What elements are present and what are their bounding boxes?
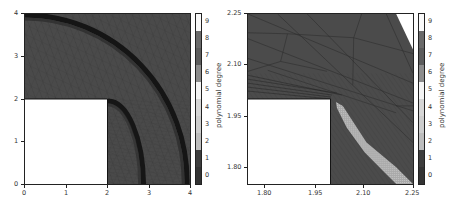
left-cbar-label: polynomial degree	[215, 63, 223, 128]
right-xtick-mark	[413, 185, 414, 188]
left-xtick-mark	[24, 185, 25, 188]
left-cbar-tick: 2	[205, 138, 209, 145]
cbar-band-4	[419, 99, 424, 116]
left-ytick-label: 0	[14, 181, 18, 188]
cbar-band-8	[419, 31, 424, 48]
left-cbar-tick: 0	[205, 172, 209, 179]
right-cbar-tick: 2	[428, 138, 432, 145]
cbar-band-5	[196, 82, 201, 99]
right-ytick-label: 1.95	[227, 113, 241, 120]
left-ytick-mark	[21, 99, 24, 100]
right-mesh-graphic	[248, 14, 413, 184]
left-cbar-tick: 3	[205, 121, 209, 128]
right-ytick-mark	[244, 13, 247, 14]
cbar-band-8	[196, 31, 201, 48]
left-cbar-tick: 8	[205, 35, 209, 42]
left-xtick-label: 2	[105, 190, 109, 197]
right-xtick-label: 2.25	[405, 190, 419, 197]
left-cbar-tick: 6	[205, 69, 209, 76]
right-xtick-mark	[315, 185, 316, 188]
cbar-band-0	[419, 167, 424, 184]
left-ytick-label: 2	[14, 96, 18, 103]
cbar-band-1	[419, 150, 424, 167]
left-ytick-mark	[21, 13, 24, 14]
left-ytick-label: 3	[14, 53, 18, 60]
left-ytick-label: 4	[14, 10, 18, 17]
cbar-band-9	[196, 14, 201, 31]
right-ytick-label: 1.80	[227, 164, 241, 171]
cbar-band-9	[419, 14, 424, 31]
right-xtick-mark	[264, 185, 265, 188]
right-cbar-tick: 7	[428, 52, 432, 59]
left-cbar-tick: 1	[205, 155, 209, 162]
right-ytick-mark	[244, 167, 247, 168]
right-ytick-label: 2.25	[227, 10, 241, 17]
right-cbar-tick: 4	[428, 104, 432, 111]
cbar-band-4	[196, 99, 201, 116]
left-xtick-mark	[107, 185, 108, 188]
left-plot-area	[24, 13, 191, 185]
right-cbar-tick: 3	[428, 121, 432, 128]
left-cbar-tick: 9	[205, 18, 209, 25]
right-cbar-tick: 0	[428, 172, 432, 179]
cbar-band-7	[419, 48, 424, 65]
right-ytick-mark	[244, 64, 247, 65]
right-cbar-tick: 9	[428, 18, 432, 25]
right-colorbar	[418, 13, 425, 185]
cbar-band-7	[196, 48, 201, 65]
right-ytick-label: 2.10	[227, 61, 241, 68]
right-plot-area	[247, 13, 414, 185]
left-ytick-label: 1	[14, 138, 18, 145]
cbar-band-2	[196, 133, 201, 150]
cbar-band-1	[196, 150, 201, 167]
cbar-band-5	[419, 82, 424, 99]
cbar-band-3	[196, 116, 201, 133]
left-ytick-mark	[21, 141, 24, 142]
right-xtick-label: 2.10	[356, 190, 370, 197]
right-cbar-tick: 5	[428, 86, 432, 93]
right-cbar-tick: 6	[428, 69, 432, 76]
left-xtick-mark	[66, 185, 67, 188]
left-xtick-label: 3	[147, 190, 151, 197]
cbar-band-0	[196, 167, 201, 184]
right-cbar-tick: 1	[428, 155, 432, 162]
left-cbar-tick: 4	[205, 104, 209, 111]
left-xtick-mark	[149, 185, 150, 188]
left-ytick-mark	[21, 56, 24, 57]
left-xtick-mark	[190, 185, 191, 188]
left-xtick-label: 0	[22, 190, 26, 197]
cbar-band-2	[419, 133, 424, 150]
left-xtick-label: 4	[188, 190, 192, 197]
right-xtick-label: 1.95	[308, 190, 322, 197]
left-colorbar	[195, 13, 202, 185]
left-cbar-tick: 5	[205, 86, 209, 93]
left-mesh-graphic	[25, 14, 190, 184]
right-cbar-tick: 8	[428, 35, 432, 42]
left-xtick-label: 1	[64, 190, 68, 197]
right-xtick-mark	[363, 185, 364, 188]
right-ytick-mark	[244, 116, 247, 117]
cbar-band-6	[196, 65, 201, 82]
right-cbar-label: polynomial degree	[438, 63, 446, 128]
left-cbar-tick: 7	[205, 52, 209, 59]
cbar-band-6	[419, 65, 424, 82]
right-xtick-label: 1.80	[257, 190, 271, 197]
cbar-band-3	[419, 116, 424, 133]
